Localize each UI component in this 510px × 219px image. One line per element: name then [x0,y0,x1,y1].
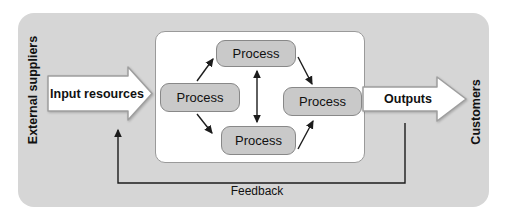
process-box-left: Process [160,83,240,112]
outputs-label: Outputs [384,92,432,106]
process-box-top: Process [216,40,296,67]
diagram-canvas: External suppliers Customers Process Pro… [0,0,510,219]
external-suppliers-label: External suppliers [26,36,40,144]
process-box-bottom: Process [221,126,296,155]
feedback-label: Feedback [231,184,284,198]
process-box-right: Process [283,87,362,116]
customers-label: Customers [469,79,483,144]
input-resources-label: Input resources [50,87,144,101]
